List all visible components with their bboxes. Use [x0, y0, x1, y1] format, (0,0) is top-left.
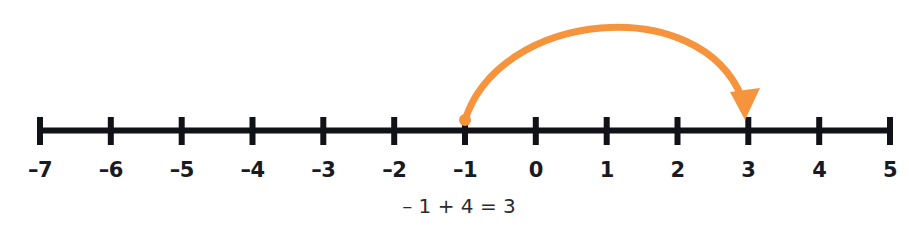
tick-label-4: 4 — [812, 160, 826, 181]
tick-label-5: 5 — [883, 160, 897, 181]
number-line-figure: –7 –6 –5 –4 –3 –2 –1 0 1 2 3 4 5 – 1 + 4… — [0, 0, 909, 230]
tick-label--4: –4 — [240, 160, 264, 181]
tick-label-0: 0 — [529, 160, 543, 181]
tick-label--6: –6 — [99, 160, 123, 181]
arc-path — [465, 27, 742, 120]
jump-arc — [459, 27, 760, 126]
tick-label-1: 1 — [600, 160, 614, 181]
tick-label--5: –5 — [170, 160, 194, 181]
tick-label--7: –7 — [28, 160, 52, 181]
arc-arrowhead-icon — [730, 88, 760, 120]
tick-label--2: –2 — [382, 160, 406, 181]
equation-caption: – 1 + 4 = 3 — [402, 196, 515, 216]
tick-label-2: 2 — [670, 160, 684, 181]
tick-label-3: 3 — [741, 160, 755, 181]
tick-label--1: –1 — [453, 160, 477, 181]
tick-label--3: –3 — [311, 160, 335, 181]
arc-start-dot — [459, 114, 471, 126]
